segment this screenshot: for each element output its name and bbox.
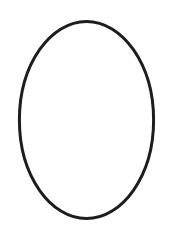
canvas-background [0,0,173,229]
image-canvas: Hand-drawn vertical oval outline [0,0,173,229]
ellipse-figure [0,0,173,229]
